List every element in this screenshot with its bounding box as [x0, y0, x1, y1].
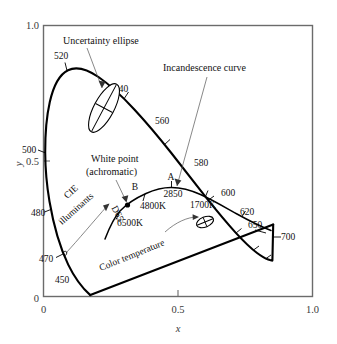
temperature-label-6500K: 6500K: [117, 218, 143, 228]
illuminant-label-B: B: [132, 182, 138, 192]
spectral-locus-curve: [45, 68, 273, 295]
color-temperature-curved-arrow: [165, 217, 197, 232]
wavelength-label-480: 480: [31, 208, 46, 218]
cie-illuminants-label-line1: CIE: [62, 183, 80, 201]
x-tick-10: 1.0: [306, 304, 319, 315]
cie-illuminants-label-line2: illuminants: [57, 191, 96, 227]
uncertainty-ellipse-label: Uncertainty ellipse: [63, 35, 139, 46]
illuminant-label-A: A: [168, 172, 175, 182]
uncertainty-ellipse-arrowhead: [99, 81, 106, 88]
temperature-label-1700K: 1700K: [190, 200, 216, 210]
x-axis-label: x: [175, 323, 181, 334]
incandescence-curve-label: Incandescence curve: [163, 62, 247, 73]
wavelength-label-580: 580: [194, 158, 209, 168]
locus-wavelength-ticks: [38, 63, 271, 259]
wavelength-label-700: 700: [281, 232, 296, 242]
white-point-arrowhead: [122, 195, 129, 202]
x-tick-05: 0.5: [171, 304, 184, 315]
chart-svg: 0 0.5 1.0 0 0.5 1.0 x y 520 540 560 580 …: [0, 0, 337, 344]
white-point-label-line1: White point: [91, 153, 139, 164]
uncertainty-ellipse-green: [82, 79, 125, 136]
wavelength-label-560: 560: [155, 116, 170, 126]
temperature-label-2850: 2850: [164, 189, 183, 199]
wavelength-label-520: 520: [54, 51, 69, 61]
incandescence-curve-arrowhead: [175, 179, 182, 186]
wavelength-label-500: 500: [22, 145, 37, 155]
y-tick-05: 0.5: [26, 156, 39, 167]
color-temperature-arrowhead: [193, 214, 199, 220]
white-point-label-line2: (achromatic): [86, 166, 137, 178]
cie-chromaticity-figure: 0 0.5 1.0 0 0.5 1.0 x y 520 540 560 580 …: [0, 0, 337, 344]
incandescence-curve-leader: [177, 77, 207, 186]
y-tick-10: 1.0: [26, 20, 39, 31]
color-temperature-label: Color temperature: [98, 238, 166, 273]
y-axis-label: y: [13, 161, 24, 167]
temperature-label-4800K: 4800K: [140, 201, 166, 211]
x-tick-0: 0: [41, 304, 46, 315]
wavelength-label-600: 600: [221, 188, 236, 198]
wavelength-label-470: 470: [39, 254, 54, 264]
wavelength-label-620: 620: [240, 207, 255, 217]
wavelength-label-450: 450: [55, 275, 70, 285]
y-tick-0: 0: [34, 293, 39, 304]
white-point-marker: [125, 202, 130, 207]
uncertainty-ellipse-red: [195, 214, 215, 230]
